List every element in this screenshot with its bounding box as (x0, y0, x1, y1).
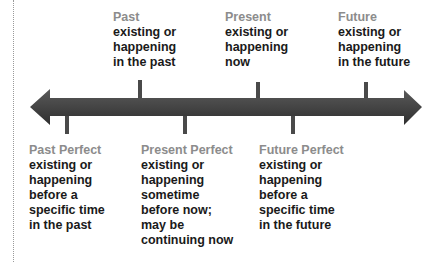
double-arrow (30, 89, 422, 125)
term: Past Perfect (29, 143, 105, 158)
definition: existing or happening now (225, 25, 288, 70)
definition: existing or happening in the past (113, 25, 176, 70)
label-present-perfect: Present Perfect existing or happening so… (141, 143, 233, 248)
term: Present (225, 10, 288, 25)
term: Future (338, 10, 410, 25)
label-past-perfect: Past Perfect existing or happening befor… (29, 143, 105, 233)
label-future: Future existing or happening in the futu… (338, 10, 410, 70)
definition: existing or happening before a specific … (259, 158, 344, 233)
tick-present (256, 82, 260, 99)
term: Past (113, 10, 176, 25)
term: Future Perfect (259, 143, 344, 158)
label-past: Past existing or happening in the past (113, 10, 176, 70)
term: Present Perfect (141, 143, 233, 158)
definition: existing or happening in the future (338, 25, 410, 70)
tick-present-perfect (183, 116, 187, 134)
tick-future-perfect (291, 116, 295, 134)
tick-past-perfect (65, 116, 69, 134)
label-present: Present existing or happening now (225, 10, 288, 70)
definition: existing or happening before a specific … (29, 158, 105, 233)
tick-future (364, 82, 368, 99)
label-future-perfect: Future Perfect existing or happening bef… (259, 143, 344, 233)
definition: existing or happening sometime before no… (141, 158, 233, 248)
tick-past (138, 80, 142, 99)
